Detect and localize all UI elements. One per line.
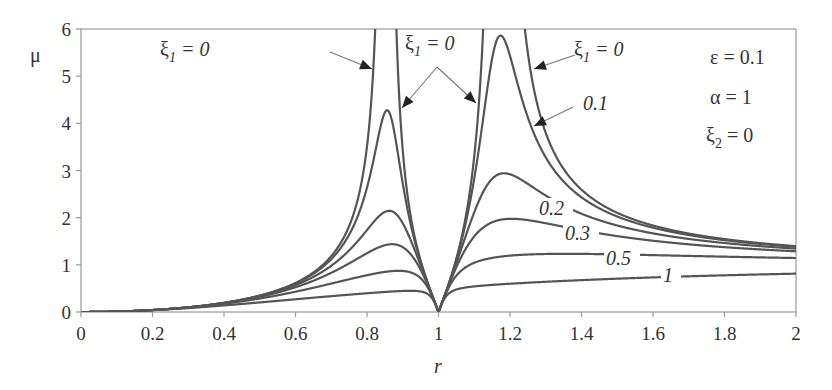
x-tick-label: 0.8 bbox=[355, 323, 379, 344]
param-epsilon: ε = 0.1 bbox=[710, 46, 765, 68]
label-xi1-0.2: 0.2 bbox=[539, 197, 564, 219]
curve-xi1-0.2 bbox=[81, 173, 796, 312]
y-tick-label: 2 bbox=[62, 208, 72, 229]
curve-xi1-0.5 bbox=[81, 254, 796, 312]
label-xi1-zero-center: ξ1 = 0 bbox=[405, 32, 454, 59]
x-tick-label: 1.2 bbox=[498, 323, 522, 344]
y-tick-label: 5 bbox=[62, 66, 72, 87]
x-tick-label: 1.8 bbox=[713, 323, 737, 344]
y-tick-label: 0 bbox=[62, 302, 72, 323]
y-tick-label: 3 bbox=[62, 161, 72, 182]
x-tick-label: 1 bbox=[434, 323, 444, 344]
x-tick-label: 2 bbox=[791, 323, 801, 344]
param-xi2: ξ2 = 0 bbox=[706, 124, 753, 151]
x-tick-label: 0 bbox=[76, 323, 86, 344]
label-xi1-zero-right: ξ1 = 0 bbox=[574, 38, 623, 65]
y-tick-label: 6 bbox=[62, 19, 72, 40]
arrowhead-icon bbox=[534, 60, 547, 69]
y-axis-label: μ bbox=[30, 44, 41, 67]
label-xi1-0.3: 0.3 bbox=[565, 222, 590, 244]
x-tick-label: 0.6 bbox=[284, 323, 308, 344]
arrowhead-icon bbox=[359, 60, 372, 69]
plot-frame bbox=[81, 29, 796, 312]
label-xi1-0.5: 0.5 bbox=[606, 247, 631, 269]
label-xi1-1: 1 bbox=[663, 264, 673, 286]
x-axis-label: r bbox=[434, 355, 442, 377]
y-tick-label: 1 bbox=[62, 255, 72, 276]
chart: 00.20.40.60.811.21.41.61.820123456 μ r ξ… bbox=[0, 0, 832, 390]
arrow-annotations bbox=[330, 52, 575, 126]
y-tick-label: 4 bbox=[62, 113, 72, 134]
x-tick-label: 1.4 bbox=[570, 323, 594, 344]
curve-xi1-0.1 bbox=[81, 36, 796, 312]
x-tick-label: 0.4 bbox=[212, 323, 236, 344]
x-tick-label: 1.6 bbox=[641, 323, 665, 344]
arrowhead-icon bbox=[402, 96, 414, 108]
x-tick-label: 0.2 bbox=[141, 323, 165, 344]
param-alpha: α = 1 bbox=[710, 86, 752, 108]
label-xi1-0.1: 0.1 bbox=[583, 92, 608, 114]
label-xi1-zero-left: ξ1 = 0 bbox=[160, 38, 209, 65]
